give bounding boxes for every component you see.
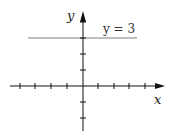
x-axis-arrow-icon <box>155 83 165 89</box>
x-axis-label: x <box>154 92 162 107</box>
line-label: y = 3 <box>102 22 135 36</box>
y-axis-label: y <box>66 8 75 23</box>
coordinate-plot: y x y = 3 <box>0 0 171 136</box>
y-axis-arrow-icon <box>80 11 86 22</box>
